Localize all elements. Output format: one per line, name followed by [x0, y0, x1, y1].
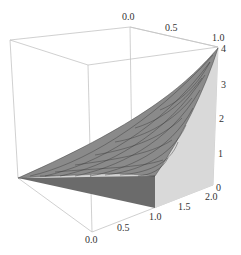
z-tick-2: 2	[219, 113, 224, 124]
z-tick-4: 4	[221, 43, 226, 54]
surface-side-face-front	[18, 176, 155, 208]
x-tick-3: 1.5	[178, 201, 191, 212]
y-tick-2: 1.0	[212, 32, 225, 43]
x-tick-2: 1.0	[149, 211, 162, 222]
x-tick-1: 0.5	[117, 222, 130, 233]
z-tick-1: 1	[218, 148, 223, 159]
x-tick-0: 0.0	[85, 234, 98, 245]
y-tick-1: 0.5	[165, 22, 178, 33]
y-axis: 0.0 0.5 1.0	[122, 11, 225, 47]
x-tick-4: 2.0	[205, 191, 218, 202]
z-tick-3: 3	[221, 79, 226, 90]
surface-plot-3d: 0.0 0.5 1.0 4 3 2 1 0 0.0 0.5 1.0 1.5 2.…	[0, 0, 241, 255]
y-tick-0: 0.0	[122, 11, 135, 22]
